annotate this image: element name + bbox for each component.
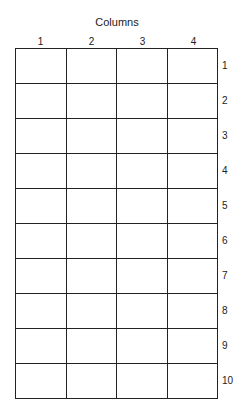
- row-header: 5: [222, 200, 228, 211]
- grid-cell: [117, 294, 168, 329]
- grid-cell: [66, 329, 117, 364]
- grid-cell: [16, 329, 67, 364]
- grid-cell: [167, 84, 218, 119]
- grid-cell: [117, 154, 168, 189]
- column-header: 3: [117, 36, 168, 47]
- grid-cell: [16, 84, 67, 119]
- grid-cell: [66, 259, 117, 294]
- grid-cell: [167, 329, 218, 364]
- grid-cell: [167, 294, 218, 329]
- grid-cell: [66, 189, 117, 224]
- grid-cell: [66, 224, 117, 259]
- column-header: 4: [168, 36, 219, 47]
- grid-row: [16, 189, 218, 224]
- grid-cell: [167, 364, 218, 399]
- grid-cell: [16, 294, 67, 329]
- grid-cell: [16, 189, 67, 224]
- grid-row: [16, 259, 218, 294]
- grid-row: [16, 49, 218, 84]
- grid-cell: [167, 189, 218, 224]
- grid-cell: [117, 224, 168, 259]
- row-header: 2: [222, 95, 228, 106]
- grid-cell: [167, 259, 218, 294]
- grid-cell: [16, 259, 67, 294]
- grid-cell: [117, 364, 168, 399]
- grid-row: [16, 329, 218, 364]
- row-header: 1: [222, 60, 228, 71]
- row-header: 3: [222, 130, 228, 141]
- grid-cell: [167, 119, 218, 154]
- grid-row: [16, 364, 218, 399]
- grid-cell: [117, 49, 168, 84]
- grid-row: [16, 119, 218, 154]
- grid-row: [16, 84, 218, 119]
- grid-cell: [16, 224, 67, 259]
- grid-cell: [117, 84, 168, 119]
- grid-cell: [117, 189, 168, 224]
- column-header: 1: [15, 36, 66, 47]
- columns-title: Columns: [15, 16, 219, 28]
- row-header: 9: [222, 340, 228, 351]
- column-header: 2: [66, 36, 117, 47]
- grid-cell: [117, 329, 168, 364]
- grid-cell: [167, 154, 218, 189]
- row-header: 7: [222, 270, 228, 281]
- grid-row: [16, 224, 218, 259]
- grid-cell: [16, 119, 67, 154]
- grid-cell: [16, 154, 67, 189]
- grid-row: [16, 294, 218, 329]
- row-header: 8: [222, 305, 228, 316]
- grid-cell: [167, 49, 218, 84]
- grid-cell: [117, 259, 168, 294]
- grid-cell: [66, 119, 117, 154]
- grid-table: [15, 48, 218, 399]
- grid-cell: [117, 119, 168, 154]
- row-header: 6: [222, 235, 228, 246]
- row-header: 10: [222, 375, 233, 386]
- row-header: 4: [222, 165, 228, 176]
- grid-cell: [16, 49, 67, 84]
- grid-cell: [167, 224, 218, 259]
- grid-row: [16, 154, 218, 189]
- grid-cell: [66, 154, 117, 189]
- grid-cell: [16, 364, 67, 399]
- grid-cell: [66, 294, 117, 329]
- grid-cell: [66, 84, 117, 119]
- grid-cell: [66, 364, 117, 399]
- grid-cell: [66, 49, 117, 84]
